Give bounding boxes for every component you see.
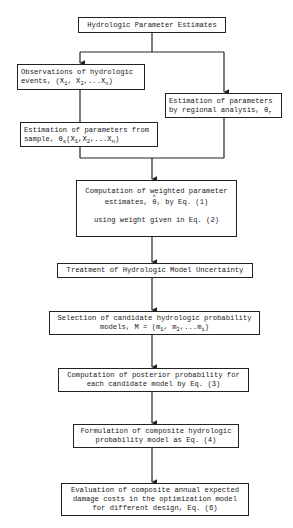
node-candidate-models: Selection of candidate hydrologic probab… [49,311,260,335]
node-label-line2: each candidate model by Eq. (3) [62,380,245,389]
node-label: Hydrologic Parameter Estimates [87,21,216,29]
node-label-line1: Observations of hydrologic [21,68,141,77]
node-regional-analysis: Estimation of parameters by regional ana… [165,93,282,118]
node-label-line2: events, (X1, X2,...Xn) [21,77,141,86]
node-posterior-probability: Computation of posterior probability for… [58,368,249,392]
node-label-line3: using weight given in Eq. (2) [80,215,233,226]
node-label-line1: Formulation of composite hydrologic [77,427,235,436]
node-composite-model: Formulation of composite hydrologic prob… [73,424,239,448]
node-sample-estimation: Estimation of parameters from sample, θs… [20,122,158,147]
node-label-line1: Selection of candidate hydrologic probab… [53,314,256,323]
node-observations: Observations of hydrologic events, (X1, … [17,64,145,90]
node-label-line2: models, M = (m1, m2,...mi) [53,323,256,332]
node-hydrologic-parameter-estimates: Hydrologic Parameter Estimates [78,17,226,33]
node-label-line1: Computation of posterior probability for [62,371,245,380]
node-label-line2: probability model as Eq. (4) [77,436,235,445]
node-label-line2: damage costs in the optimization model [65,495,245,504]
node-label-line1: Evaluation of composite annual expected [65,486,245,495]
node-label: Treatment of Hydrologic Model Uncertaint… [67,266,244,274]
node-label-line2: estimates, θ, by Eq. (1) [80,197,233,208]
node-label-line3: for different design, Eq. (6) [65,504,245,513]
node-model-uncertainty: Treatment of Hydrologic Model Uncertaint… [57,263,253,278]
node-label-line2: sample, θs(X1,X2,...Xn) [24,135,154,144]
node-label-line1: Estimation of parameters from [24,126,154,135]
node-expected-damage-costs: Evaluation of composite annual expected … [61,483,249,516]
node-label-line1: Computation of weighted parameter [80,186,233,197]
node-weighted-estimates: Computation of weighted parameter estima… [76,180,237,237]
node-label-line1: Estimation of parameters [169,97,278,106]
node-label-line2: by regional analysis, θr [169,106,278,115]
